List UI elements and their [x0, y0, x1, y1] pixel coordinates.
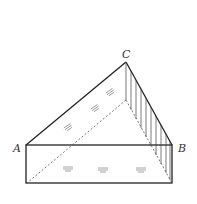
label-C: C — [122, 48, 131, 61]
edge-AC — [26, 62, 126, 145]
hidden-edge-left — [27, 100, 126, 183]
side-face-hatching — [131, 71, 170, 180]
label-B: B — [177, 142, 186, 155]
hidden-edge-right — [126, 100, 172, 183]
water-marks — [63, 88, 146, 172]
edge-CB — [126, 62, 172, 145]
front-box — [26, 145, 172, 183]
label-A: A — [12, 142, 21, 155]
prism-diagram: A B C — [0, 0, 197, 204]
